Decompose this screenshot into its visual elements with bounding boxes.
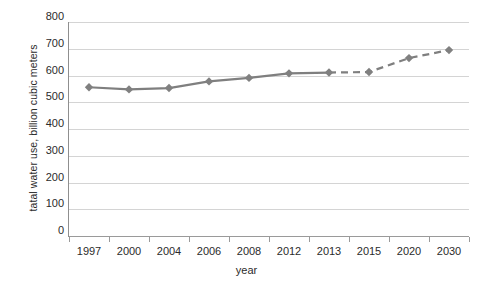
data-point-marker: [285, 69, 293, 77]
x-tick-label: 2008: [237, 245, 261, 258]
x-tick-label: 2000: [117, 245, 141, 258]
y-tick-label: 300: [30, 144, 64, 155]
y-tick-label: 400: [30, 118, 64, 129]
data-point-marker: [445, 46, 453, 54]
x-tick-mark: [389, 237, 390, 242]
data-point-marker: [125, 85, 133, 93]
y-tick-label: 600: [30, 64, 64, 75]
x-tick-label: 2013: [317, 245, 341, 258]
x-tick-mark: [469, 237, 470, 242]
line-chart: tatal water use, billion cubic meters 80…: [0, 0, 493, 284]
x-axis-tick-labels: 1997200020042006200820122013201520202030: [69, 245, 469, 261]
y-tick-label: 700: [30, 37, 64, 48]
data-point-marker: [165, 84, 173, 92]
x-tick-mark: [309, 237, 310, 242]
y-tick-label: 800: [30, 11, 64, 22]
x-tick-label: 2030: [437, 245, 461, 258]
x-tick-mark: [149, 237, 150, 242]
x-tick-mark: [349, 237, 350, 242]
y-axis-tick-labels: 8007006005004003002001000: [30, 16, 64, 242]
x-tick-label: 2006: [197, 245, 221, 258]
data-point-marker: [325, 68, 333, 76]
x-tick-mark: [269, 237, 270, 242]
x-tick-label: 2015: [357, 245, 381, 258]
x-tick-label: 2020: [397, 245, 421, 258]
x-tick-label: 1997: [77, 245, 101, 258]
x-tick-mark: [229, 237, 230, 242]
y-tick-label: 200: [30, 171, 64, 182]
y-tick-label: 500: [30, 91, 64, 102]
series-line-projection: [329, 50, 449, 72]
x-tick-label: 2012: [277, 245, 301, 258]
y-tick-label: 0: [30, 225, 64, 236]
x-tick-mark: [109, 237, 110, 242]
series-layer: [69, 22, 469, 236]
data-point-marker: [245, 74, 253, 82]
x-tick-label: 2004: [157, 245, 181, 258]
data-point-marker: [85, 83, 93, 91]
y-tick-label: 100: [30, 198, 64, 209]
x-tick-mark: [429, 237, 430, 242]
x-tick-mark: [69, 237, 70, 242]
data-point-marker: [405, 54, 413, 62]
series-total-water-use: [85, 46, 453, 94]
x-axis-title: year: [0, 264, 493, 276]
data-point-marker: [205, 77, 213, 85]
x-tick-mark: [189, 237, 190, 242]
data-point-marker: [365, 68, 373, 76]
